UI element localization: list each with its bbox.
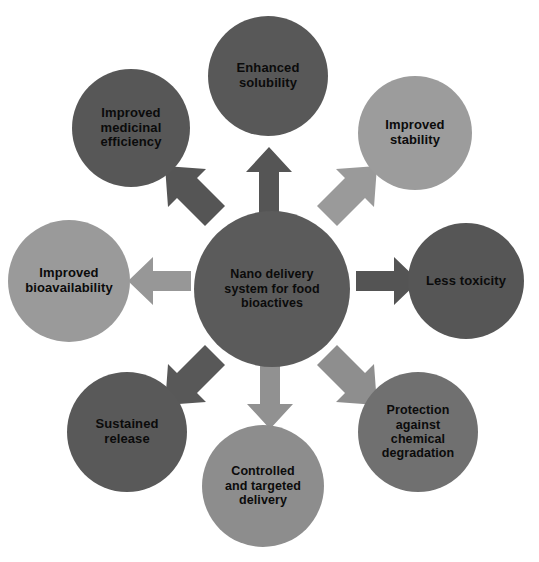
node-label-enhanced-solubility: Enhanced solubility: [231, 61, 306, 91]
node-label-controlled-and-targeted-delivery: Controlled and targeted delivery: [219, 464, 307, 507]
node-center-nano-delivery-system[interactable]: Nano delivery system for food bioactives: [194, 211, 350, 367]
diagram-canvas: Enhanced solubility Improved stability L…: [0, 0, 539, 562]
node-protection-against-chemical-degradation[interactable]: Protection against chemical degradation: [358, 372, 478, 492]
arrow-up: [245, 146, 293, 218]
arrow-left: [128, 256, 192, 306]
arrow-up-left: [164, 165, 226, 227]
node-label-improved-bioavailability: Improved bioavailability: [19, 266, 118, 296]
arrow-up-right: [316, 165, 378, 227]
arrow-down: [246, 358, 294, 430]
node-controlled-and-targeted-delivery[interactable]: Controlled and targeted delivery: [202, 425, 324, 547]
node-label-improved-stability: Improved stability: [379, 118, 450, 148]
node-label-sustained-release: Sustained release: [89, 417, 164, 447]
node-sustained-release[interactable]: Sustained release: [67, 372, 187, 492]
node-label-improved-medicinal-efficiency: Improved medicinal efficiency: [95, 106, 168, 151]
node-improved-stability[interactable]: Improved stability: [358, 76, 472, 190]
node-less-toxicity[interactable]: Less toxicity: [408, 223, 524, 339]
node-label-less-toxicity: Less toxicity: [420, 274, 512, 289]
node-label-protection-against-chemical-degradation: Protection against chemical degradation: [376, 403, 461, 461]
node-label-center: Nano delivery system for food bioactives: [218, 267, 325, 310]
node-improved-bioavailability[interactable]: Improved bioavailability: [8, 220, 130, 342]
node-enhanced-solubility[interactable]: Enhanced solubility: [208, 16, 328, 136]
node-improved-medicinal-efficiency[interactable]: Improved medicinal efficiency: [72, 69, 190, 187]
